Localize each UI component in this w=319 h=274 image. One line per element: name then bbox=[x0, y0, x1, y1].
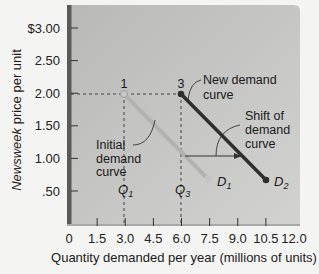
y-tick-label: .50 bbox=[42, 184, 60, 199]
x-tick-label: 0 bbox=[65, 231, 72, 246]
x-tick-label: 3.0 bbox=[116, 231, 134, 246]
y-tick-label: 1.00 bbox=[35, 151, 60, 166]
x-tick-label: 10.5 bbox=[253, 231, 278, 246]
y-axis-bar bbox=[67, 5, 72, 226]
x-tick-label: 7.5 bbox=[201, 231, 219, 246]
x-tick-label: 9.0 bbox=[229, 231, 247, 246]
y-tick-label: 2.50 bbox=[35, 53, 60, 68]
x-axis-base bbox=[67, 224, 300, 226]
y-tick-label: $3.00 bbox=[27, 21, 60, 36]
y-axis-title: Newsweek price per unit bbox=[9, 49, 24, 191]
x-tick-label: 4.5 bbox=[144, 231, 162, 246]
d1-end-marker bbox=[205, 176, 212, 183]
point-1-marker bbox=[121, 91, 128, 98]
y-tick-label: 2.00 bbox=[35, 86, 60, 101]
x-tick-label: 12.0 bbox=[281, 231, 306, 246]
point-1-label: 1 bbox=[121, 77, 128, 91]
d2-end-marker bbox=[263, 177, 270, 184]
x-axis-title: Quantity demanded per year (millions of … bbox=[51, 250, 317, 265]
point-3-label: 3 bbox=[178, 77, 185, 91]
y-tick-label: 1.50 bbox=[35, 118, 60, 133]
x-tick-label: 1.5 bbox=[88, 231, 106, 246]
point-3-marker bbox=[178, 91, 185, 98]
demand-shift-chart: $3.002.502.001.501.00.50 01.53.04.56.07.… bbox=[0, 0, 319, 274]
x-tick-label: 6.0 bbox=[172, 231, 190, 246]
